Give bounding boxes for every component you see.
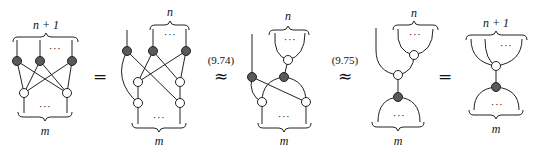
top-label: n — [411, 6, 417, 20]
bottom-brace — [469, 110, 523, 119]
white-node — [176, 99, 185, 108]
black-node — [248, 73, 257, 82]
bottom-ellipsis: ··· — [491, 98, 504, 110]
diagram-lhs: n + 1 ··· ··· m — [13, 18, 79, 138]
diagram-step1: n ··· ··· m — [122, 5, 191, 148]
wire — [471, 39, 496, 66]
black-node — [13, 57, 22, 66]
black-node — [182, 47, 191, 56]
diagram-step2: n ··· ··· m — [248, 9, 312, 148]
white-node — [492, 62, 501, 71]
relation-approx: ≈ — [214, 66, 228, 86]
white-node — [63, 89, 72, 98]
top-ellipsis: ··· — [500, 39, 513, 51]
black-node — [394, 93, 403, 102]
white-node — [284, 56, 293, 65]
relation-equals: = — [438, 66, 452, 86]
bottom-brace — [258, 123, 311, 132]
bottom-ellipsis: ··· — [393, 109, 406, 121]
black-node — [149, 47, 158, 56]
black-node — [36, 57, 45, 66]
bottom-label: m — [280, 134, 289, 148]
bottom-brace — [132, 123, 186, 132]
bottom-ellipsis: ··· — [153, 111, 166, 123]
black-node — [123, 47, 132, 56]
bottom-ellipsis: ··· — [39, 100, 52, 112]
wire — [127, 51, 180, 103]
top-label: n + 1 — [33, 18, 59, 32]
white-node — [176, 78, 185, 87]
bottom-ellipsis: ··· — [278, 110, 291, 122]
white-node — [134, 99, 143, 108]
bottom-label: m — [394, 134, 403, 148]
wire — [153, 51, 180, 82]
wire — [24, 61, 72, 93]
black-node — [68, 57, 77, 66]
bottom-label: m — [155, 134, 164, 148]
top-ellipsis: ··· — [164, 28, 177, 40]
relation-equals: = — [93, 66, 107, 86]
wire — [376, 28, 398, 75]
string-diagram-equation: n + 1 ··· ··· m = n ··· — [0, 0, 534, 152]
bottom-label: m — [41, 124, 50, 138]
black-node — [280, 73, 289, 82]
black-node — [492, 83, 501, 92]
bottom-brace — [372, 122, 424, 131]
diagram-rhs: n + 1 ··· ··· m — [466, 16, 527, 136]
top-brace — [466, 31, 527, 40]
white-node — [134, 78, 143, 87]
top-ellipsis: ··· — [284, 33, 297, 45]
white-node — [394, 71, 403, 80]
bottom-brace — [18, 112, 72, 121]
relation-approx: ≈ — [338, 66, 352, 86]
diagram-step3: n ··· ··· m — [372, 6, 438, 148]
top-label: n + 1 — [483, 16, 509, 30]
top-brace — [13, 33, 78, 42]
top-ellipsis: ··· — [409, 28, 422, 40]
bottom-label: m — [492, 122, 501, 136]
top-ellipsis: ··· — [49, 42, 62, 54]
white-node — [20, 89, 29, 98]
wire — [40, 61, 67, 93]
top-label: n — [285, 9, 291, 23]
top-label: n — [167, 5, 173, 19]
white-node — [258, 98, 267, 107]
white-node — [302, 98, 311, 107]
white-node — [410, 51, 419, 60]
